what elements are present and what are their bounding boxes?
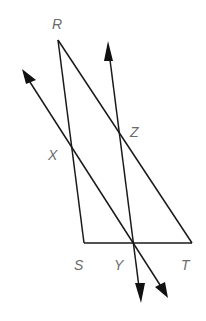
line-XY — [28, 79, 162, 288]
arrowhead-down-icon — [155, 282, 168, 298]
triangle-diagram: R X Z S Y T — [0, 0, 206, 321]
arrowhead-down-icon — [135, 283, 145, 303]
label-Y: Y — [114, 257, 125, 273]
arrowhead-up-icon — [22, 69, 36, 84]
label-R: R — [52, 16, 62, 32]
segment-RT — [58, 40, 192, 243]
label-X: X — [47, 147, 58, 163]
segment-RS — [58, 40, 84, 243]
label-Z: Z — [129, 124, 139, 140]
label-S: S — [74, 257, 84, 273]
arrowhead-up-icon — [104, 41, 113, 61]
label-T: T — [181, 257, 191, 273]
